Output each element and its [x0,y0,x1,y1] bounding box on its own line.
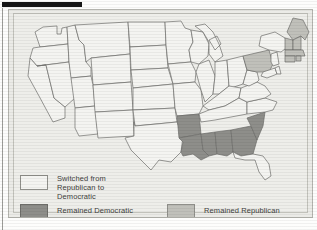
state-NJ [271,52,279,66]
us-choropleth-map: .st { stroke: #6f6f6b; stroke-width: 0.7… [13,10,313,182]
state-CT [285,56,295,62]
state-TX [125,122,183,170]
state-NY [259,32,289,52]
state-AL [215,130,233,156]
state-IA [168,62,196,84]
legend-item-switched: Switched from Republican to Democratic [20,174,106,202]
legend-label-remained-republican: Remained Republican [204,206,280,215]
legend-label-switched: Switched from Republican to Democratic [57,174,106,202]
legend-swatch-light-gray [167,204,195,218]
state-UT [71,76,95,108]
state-ND [128,22,166,47]
state-NM [95,110,134,138]
state-MA [285,50,305,56]
state-WA [35,26,68,47]
state-VT [285,38,293,50]
state-MN [165,21,193,64]
figure-root: .st { stroke: #6f6f6b; stroke-width: 0.7… [0,0,317,230]
legend-item-remained-republican: Remained Republican [167,203,280,218]
state-ME [287,18,309,40]
legend-label-remained-democratic: Remained Democratic [57,206,133,215]
state-CO [93,82,133,112]
left-margin-rule [2,8,3,230]
state-SD [130,45,168,70]
map-panel: .st { stroke: #6f6f6b; stroke-width: 0.7… [8,9,313,218]
state-PA [243,50,273,72]
legend-swatch-dark-gray [20,204,48,218]
state-WY [91,54,131,85]
state-MO [173,82,203,116]
legend-item-remained-democratic: Remained Democratic [20,203,133,218]
state-RI [296,56,301,61]
state-KS [133,84,175,110]
map-legend: Switched from Republican to Democratic R… [9,165,313,218]
legend-swatch-white [20,175,48,190]
top-rule [2,2,82,7]
